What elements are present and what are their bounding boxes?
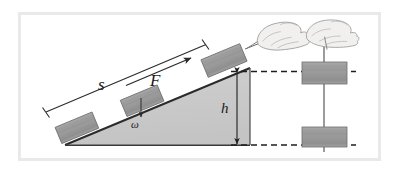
block-lift-lower <box>302 127 347 147</box>
label-omega: ω <box>131 119 139 130</box>
label-h: h <box>221 101 229 116</box>
label-F: F <box>150 72 160 89</box>
label-s: s <box>98 76 105 93</box>
block-lift-upper <box>302 62 347 84</box>
diagram-canvas <box>0 0 398 173</box>
physics-diagram-figure: s F ω h <box>0 0 398 173</box>
